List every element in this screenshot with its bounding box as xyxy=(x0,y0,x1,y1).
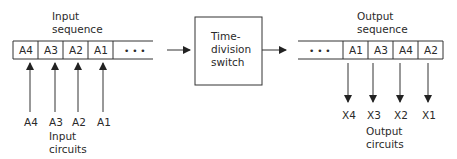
output-circuit-label-2: X3 xyxy=(367,109,381,121)
output-circuits-title-line2: circuits xyxy=(366,138,404,150)
switch-label-line2: division xyxy=(211,43,251,55)
output-continuation-dots: • • • xyxy=(309,46,331,56)
input-circuits-title-line2: circuits xyxy=(49,143,87,155)
output-cell-2: A3 xyxy=(374,44,388,56)
output-cell-1: A1 xyxy=(349,44,363,56)
output-circuit-label-3: X2 xyxy=(394,109,408,121)
switch-label-line3: switch xyxy=(211,56,245,68)
input-circuit-label-2: A3 xyxy=(49,116,63,128)
input-circuit-label-4: A1 xyxy=(97,116,111,128)
output-circuits-title-line1: Output xyxy=(366,125,402,137)
input-sequence-title-line1: Input xyxy=(52,10,79,22)
input-cell-2: A3 xyxy=(44,44,58,56)
tdm-switch-diagram: Input sequence A4 A3 A2 A1 • • • A4 A3 A… xyxy=(0,0,457,159)
output-arrows xyxy=(348,63,428,102)
input-continuation-dots: • • • xyxy=(124,46,146,56)
output-cell-3: A4 xyxy=(399,44,413,56)
input-circuit-label-3: A2 xyxy=(72,116,86,128)
output-circuit-label-1: X4 xyxy=(342,109,356,121)
output-sequence-title-line2: sequence xyxy=(357,23,408,35)
switch-label-line1: Time- xyxy=(210,30,241,42)
input-cell-1: A4 xyxy=(19,44,33,56)
input-cell-3: A2 xyxy=(69,44,83,56)
input-arrows xyxy=(30,63,103,112)
output-circuit-label-4: X1 xyxy=(422,109,436,121)
output-sequence-title-line1: Output xyxy=(357,10,393,22)
input-sequence-title-line2: sequence xyxy=(52,23,103,35)
input-cell-4: A1 xyxy=(94,44,108,56)
input-circuit-label-1: A4 xyxy=(24,116,38,128)
input-circuits-title-line1: Input xyxy=(49,130,76,142)
output-cell-4: A2 xyxy=(424,44,438,56)
